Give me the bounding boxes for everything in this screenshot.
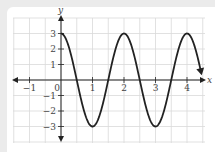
y-tick-label: 2: [50, 44, 56, 54]
y-tick-label: −3: [43, 122, 57, 132]
x-tick-label: 4: [184, 83, 190, 93]
function-graph: −101234321−1−2−3 x y: [0, 0, 215, 145]
y-axis-label: y: [57, 5, 64, 15]
y-tick-label: −1: [43, 91, 56, 101]
x-tick-label: 2: [121, 83, 127, 93]
y-tick-label: −2: [43, 106, 56, 116]
x-tick-label: 1: [90, 83, 96, 93]
y-tick-label: 3: [50, 29, 56, 39]
x-tick-label: 3: [153, 83, 159, 93]
x-axis-label: x: [207, 75, 212, 85]
x-tick-label: −1: [23, 83, 36, 93]
y-tick-label: 1: [50, 60, 56, 70]
